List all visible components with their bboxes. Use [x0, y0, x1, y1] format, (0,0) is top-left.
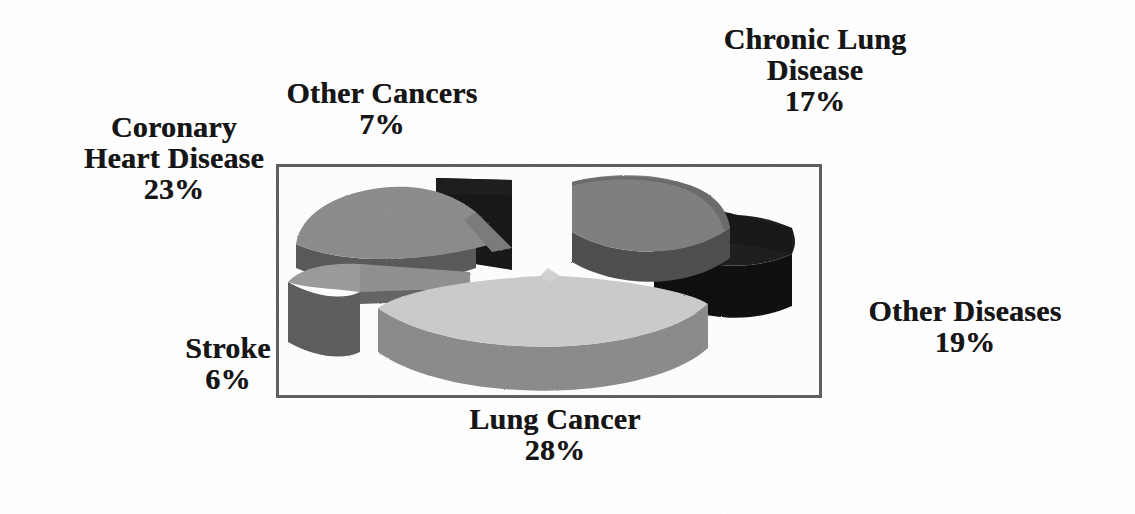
slice-value-other-diseases: 19% — [820, 327, 1110, 358]
slice-label-line1: Other Cancers — [244, 78, 520, 109]
slice-label-coronary-heart-disease: Coronary Heart Disease 23% — [47, 112, 301, 205]
slice-label-line1: Other Diseases — [820, 296, 1110, 327]
slice-label-other-diseases: Other Diseases 19% — [820, 296, 1110, 358]
slice-label-chronic-lung-disease: Chronic Lung Disease 17% — [671, 24, 959, 117]
slice-label-line2: Disease — [671, 55, 959, 86]
slice-value-coronary-heart-disease: 23% — [47, 174, 301, 205]
pie-chart-figure: Chronic Lung Disease 17% Other Cancers 7… — [0, 0, 1135, 514]
slice-label-line1: Coronary — [47, 112, 301, 143]
slice-label-line2: Heart Disease — [47, 143, 301, 174]
slice-label-line1: Stroke — [158, 333, 298, 364]
slice-label-lung-cancer: Lung Cancer 28% — [420, 404, 690, 466]
slice-value-lung-cancer: 28% — [420, 435, 690, 466]
slice-value-chronic-lung-disease: 17% — [671, 86, 959, 117]
slice-value-stroke: 6% — [158, 364, 298, 395]
slice-label-stroke: Stroke 6% — [158, 333, 298, 395]
slice-label-line1: Lung Cancer — [420, 404, 690, 435]
slice-label-line1: Chronic Lung — [671, 24, 959, 55]
plot-area-frame — [276, 164, 822, 398]
